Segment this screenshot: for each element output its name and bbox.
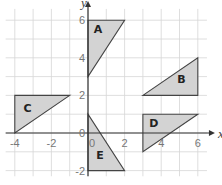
x-tick-label: -2 [47,137,57,149]
y-tick-label: 2 [79,89,85,101]
origin-label: 0 [89,137,95,149]
triangle-label-d: D [149,117,158,130]
y-tick-label: 0 [79,127,85,139]
x-axis-arrow-icon [209,130,215,136]
y-axis-label: y [79,0,87,10]
y-tick-label: -2 [75,165,85,177]
coordinate-grid: ABCDExy-4-22466420-20 [0,0,222,185]
triangle-label-e: E [96,149,104,162]
y-tick-label: 6 [79,14,85,26]
x-tick-label: 6 [195,137,201,149]
triangle-label-b: B [177,73,185,86]
x-tick-label: -4 [10,137,20,149]
y-tick-label: 4 [79,52,85,64]
triangle-label-c: C [24,102,32,115]
x-axis-label: x [217,126,222,141]
x-tick-label: 4 [158,137,164,149]
triangle-label-a: A [94,23,103,36]
x-tick-label: 2 [122,137,128,149]
